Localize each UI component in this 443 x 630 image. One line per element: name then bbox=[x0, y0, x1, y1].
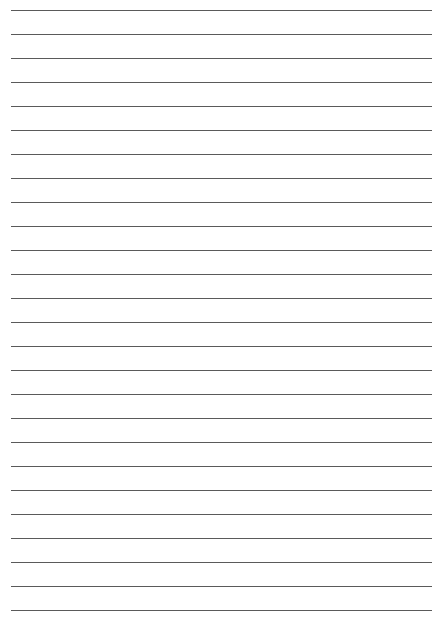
ruled-line bbox=[11, 394, 432, 395]
ruled-line bbox=[11, 442, 432, 443]
ruled-line bbox=[11, 58, 432, 59]
ruled-line bbox=[11, 106, 432, 107]
ruled-line bbox=[11, 514, 432, 515]
ruled-line bbox=[11, 274, 432, 275]
ruled-line bbox=[11, 562, 432, 563]
ruled-line bbox=[11, 586, 432, 587]
ruled-line bbox=[11, 178, 432, 179]
ruled-line bbox=[11, 154, 432, 155]
ruled-line bbox=[11, 610, 432, 611]
ruled-line bbox=[11, 130, 432, 131]
ruled-line bbox=[11, 202, 432, 203]
ruled-line bbox=[11, 82, 432, 83]
ruled-line bbox=[11, 418, 432, 419]
lined-paper-page bbox=[0, 0, 443, 630]
ruled-line bbox=[11, 466, 432, 467]
ruled-line bbox=[11, 538, 432, 539]
ruled-line bbox=[11, 298, 432, 299]
ruled-line bbox=[11, 226, 432, 227]
ruled-line bbox=[11, 250, 432, 251]
ruled-line bbox=[11, 370, 432, 371]
ruled-line bbox=[11, 322, 432, 323]
ruled-line bbox=[11, 346, 432, 347]
ruled-line bbox=[11, 34, 432, 35]
ruled-line bbox=[11, 490, 432, 491]
ruled-line bbox=[11, 10, 432, 11]
